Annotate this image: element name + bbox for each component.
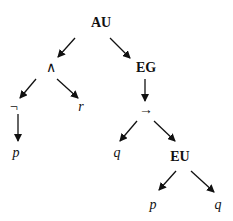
tree-node-n0: AU: [91, 16, 111, 30]
arrow-edge-n5-n8: [154, 121, 175, 141]
tree-node-n7: q: [114, 146, 121, 160]
tree-node-n5: →: [139, 103, 153, 117]
arrow-edge-n0-n2: [110, 38, 130, 58]
arrow-edge-n8-n9: [159, 171, 176, 190]
arrow-edge-n0-n1: [58, 38, 75, 57]
tree-edges: [0, 0, 233, 221]
tree-node-n1: ∧: [46, 61, 56, 75]
formula-tree-diagram: AU∧EG¬r→pqEUpq: [0, 0, 233, 221]
tree-node-n6: p: [13, 146, 20, 160]
tree-node-n2: EG: [136, 61, 156, 75]
tree-node-n9: p: [150, 198, 157, 212]
arrow-edge-n1-n3: [20, 79, 36, 98]
arrow-edge-n1-n4: [57, 79, 78, 98]
tree-node-n3: ¬: [10, 100, 18, 114]
arrow-edge-n5-n7: [120, 121, 137, 141]
tree-node-n4: r: [78, 100, 83, 114]
tree-node-n10: q: [215, 198, 222, 212]
arrow-edge-n8-n10: [191, 171, 214, 192]
tree-node-n8: EU: [170, 150, 189, 164]
